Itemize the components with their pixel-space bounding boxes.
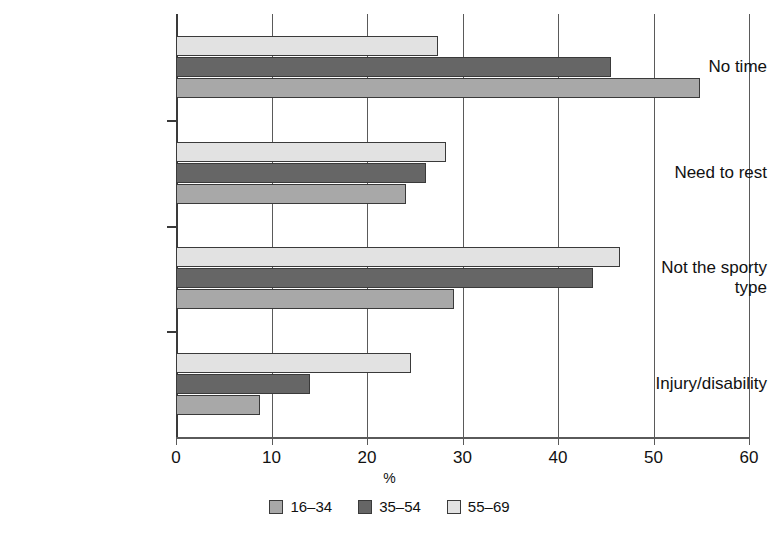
category-label: No time (603, 57, 779, 77)
chart-page: No timeNeed to restNot the sporty typeIn… (0, 0, 779, 538)
x-tick (367, 437, 368, 445)
y-tick (167, 226, 176, 228)
legend-label: 16–34 (290, 498, 332, 515)
bar (176, 353, 411, 373)
x-tick-label: 40 (528, 448, 588, 468)
bar (176, 142, 446, 162)
bar (176, 395, 260, 415)
x-tick (176, 437, 177, 445)
bar (176, 247, 620, 267)
y-tick (167, 331, 176, 333)
legend-item[interactable]: 35–54 (358, 498, 421, 515)
bar (176, 57, 611, 77)
legend-swatch-icon (447, 500, 461, 514)
bar (176, 184, 406, 204)
x-tick-label: 30 (433, 448, 493, 468)
category-label: Injury/disability (603, 374, 779, 394)
category-label: Not the sporty type (603, 258, 779, 298)
x-tick-label: 60 (719, 448, 779, 468)
x-axis-title: % (0, 470, 779, 486)
x-tick (463, 437, 464, 445)
legend-swatch-icon (269, 500, 283, 514)
x-tick (654, 437, 655, 445)
category-label: Need to rest (603, 163, 779, 183)
bar (176, 36, 438, 56)
x-tick (749, 437, 750, 445)
bar (176, 163, 426, 183)
y-tick (167, 120, 176, 122)
chart-legend: 16–3435–5455–69 (0, 498, 779, 515)
bar (176, 78, 700, 98)
x-tick (272, 437, 273, 445)
bar (176, 268, 593, 288)
bar (176, 374, 310, 394)
x-tick-label: 10 (242, 448, 302, 468)
legend-label: 55–69 (468, 498, 510, 515)
x-tick (558, 437, 559, 445)
x-tick-label: 20 (337, 448, 397, 468)
x-tick-label: 50 (624, 448, 684, 468)
bar (176, 289, 454, 309)
legend-item[interactable]: 16–34 (269, 498, 332, 515)
cropped-title-remnant (150, 0, 570, 6)
legend-label: 35–54 (379, 498, 421, 515)
legend-item[interactable]: 55–69 (447, 498, 510, 515)
x-tick-label: 0 (146, 448, 206, 468)
legend-swatch-icon (358, 500, 372, 514)
